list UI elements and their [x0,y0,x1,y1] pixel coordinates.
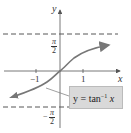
x-tick-label-neg1: −1 [30,75,40,84]
curve-left-arrow [0,0,131,133]
y-tick-label-pi-over-2: π 2 [51,38,57,55]
equation-label: y = tan−1 x [73,93,114,104]
x-tick-label-1: 1 [81,75,86,84]
y-tick-label-neg-pi-over-2: π 2 [49,109,55,126]
y-tick-neg-sign: − [43,113,48,121]
x-axis-label: x [118,74,122,84]
y-axis-label: y [52,4,56,14]
